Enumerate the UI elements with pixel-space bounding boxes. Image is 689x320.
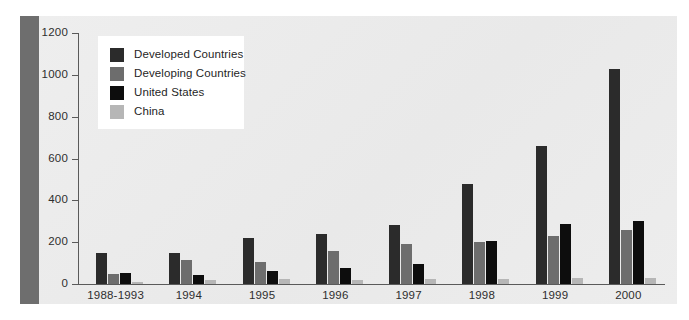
bar	[181, 260, 192, 284]
bar	[352, 280, 363, 284]
bar	[132, 282, 143, 285]
bar	[279, 279, 290, 284]
legend-item: Developed Countries	[110, 45, 234, 64]
y-axis-tick-mark	[72, 200, 79, 201]
bar	[328, 251, 339, 284]
bar	[401, 244, 412, 284]
bar	[425, 279, 436, 284]
bar	[633, 221, 644, 284]
bar-group	[592, 33, 665, 284]
bar-group	[372, 33, 445, 284]
bar	[621, 230, 632, 284]
x-axis-tick-label: 2000	[592, 290, 665, 302]
bar	[462, 184, 473, 284]
legend-item: United States	[110, 83, 234, 102]
bar	[316, 234, 327, 284]
x-axis-tick-label: 1997	[372, 290, 445, 302]
bar-group	[445, 33, 518, 284]
y-axis-tick-label: 0	[8, 278, 68, 290]
bar	[255, 262, 266, 284]
bar	[548, 236, 559, 284]
bar	[413, 264, 424, 284]
legend-swatch-icon	[110, 86, 124, 100]
legend-item-label: China	[134, 106, 165, 118]
y-axis-tick-label: 400	[8, 194, 68, 206]
bar	[609, 69, 620, 284]
bar	[340, 268, 351, 284]
y-axis-tick-mark	[72, 159, 79, 160]
bar	[645, 278, 656, 284]
y-axis-tick-label: 1200	[8, 27, 68, 39]
bar	[536, 146, 547, 284]
bar-group	[519, 33, 592, 284]
y-axis-tick-label: 200	[8, 236, 68, 248]
bar	[205, 280, 216, 284]
bar	[486, 241, 497, 284]
legend-item: China	[110, 102, 234, 121]
legend-item-label: United States	[134, 87, 204, 99]
bar	[498, 279, 509, 284]
y-axis-tick-label: 1000	[8, 69, 68, 81]
y-axis-tick-mark	[72, 117, 79, 118]
bar	[267, 271, 278, 284]
bar-group	[299, 33, 372, 284]
x-axis-tick-label: 1994	[152, 290, 225, 302]
y-axis-tick-label: 800	[8, 111, 68, 123]
chart-legend: Developed CountriesDeveloping CountriesU…	[98, 36, 244, 129]
bar	[474, 242, 485, 284]
bar-chart-figure: 020040060080010001200 Developed Countrie…	[0, 0, 689, 320]
x-axis-tick-label: 1999	[519, 290, 592, 302]
y-axis-tick-label: 600	[8, 153, 68, 165]
y-axis-tick-mark	[72, 242, 79, 243]
bar	[243, 238, 254, 284]
y-axis-tick-mark	[72, 284, 79, 285]
bar	[169, 253, 180, 284]
bar	[108, 274, 119, 284]
legend-swatch-icon	[110, 105, 124, 119]
bar	[96, 253, 107, 284]
legend-swatch-icon	[110, 48, 124, 62]
legend-swatch-icon	[110, 67, 124, 81]
x-axis-tick-label: 1998	[445, 290, 518, 302]
bar	[193, 275, 204, 284]
bar	[120, 273, 131, 284]
legend-item-label: Developed Countries	[134, 49, 243, 61]
y-axis-tick-mark	[72, 33, 79, 34]
legend-item: Developing Countries	[110, 64, 234, 83]
bar	[572, 278, 583, 284]
bar	[389, 225, 400, 284]
x-axis-tick-label: 1988-1993	[79, 290, 152, 302]
x-axis-tick-label: 1995	[226, 290, 299, 302]
legend-item-label: Developing Countries	[134, 68, 246, 80]
y-axis-tick-mark	[72, 75, 79, 76]
bar	[560, 224, 571, 284]
x-axis-tick-label: 1996	[299, 290, 372, 302]
